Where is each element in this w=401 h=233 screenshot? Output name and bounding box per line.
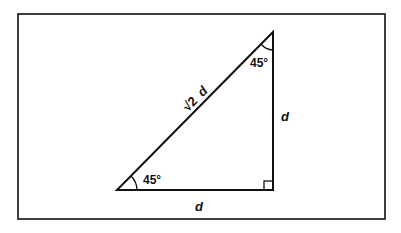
right-angle-marker — [264, 181, 273, 190]
figure-border — [18, 14, 385, 219]
hypotenuse-radical: √2 — [180, 93, 201, 114]
vertical-leg-label: d — [281, 109, 290, 124]
angle-arc-bottom-left — [131, 176, 137, 190]
horizontal-leg-label: d — [195, 199, 204, 214]
diagram-canvas: 45° 45° √2 d d d — [0, 0, 401, 233]
angle-label-bottom-left: 45° — [143, 173, 161, 187]
angle-label-top: 45° — [250, 56, 268, 70]
angle-arc-top — [261, 44, 273, 50]
